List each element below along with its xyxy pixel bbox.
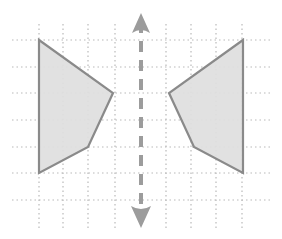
reflection-figure bbox=[0, 0, 282, 239]
geometry-canvas bbox=[0, 0, 282, 239]
